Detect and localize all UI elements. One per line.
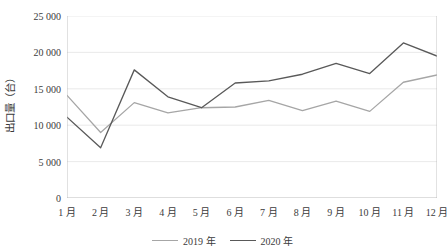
legend-label: 2020 年: [261, 233, 294, 248]
gridlines: [67, 16, 437, 198]
x-tick-label: 1 月: [58, 204, 76, 219]
x-tick-label: 6 月: [226, 204, 244, 219]
series-line-2020-年: [67, 43, 437, 148]
chart-legend: 2019 年2020 年: [0, 230, 445, 250]
y-tick-label: 10 000: [34, 120, 62, 131]
x-tick-label: 7 月: [260, 204, 278, 219]
y-tick-label: 15 000: [34, 83, 62, 94]
legend-label: 2019 年: [183, 233, 216, 248]
x-tick-label: 12 月: [426, 204, 448, 219]
plot-area: [67, 16, 437, 198]
legend-item[interactable]: 2019 年: [152, 233, 216, 248]
y-tick-label: 20 000: [34, 47, 62, 58]
x-tick-label: 9 月: [327, 204, 345, 219]
legend-item[interactable]: 2020 年: [230, 233, 294, 248]
x-tick-label: 5 月: [193, 204, 211, 219]
legend-swatch: [230, 240, 256, 241]
x-tick-label: 2 月: [92, 204, 110, 219]
x-axis-tick-labels: 1 月2 月3 月4 月5 月6 月7 月8 月9 月10 月11 月12 月: [67, 200, 437, 222]
y-tick-label: 5 000: [39, 156, 62, 167]
x-tick-label: 3 月: [126, 204, 144, 219]
y-axis-tick-labels: 05 00010 00015 00020 00025 000: [14, 0, 64, 205]
x-tick-label: 4 月: [159, 204, 177, 219]
x-tick-label: 11 月: [392, 204, 414, 219]
series-line-2019-年: [67, 75, 437, 133]
axis-lines: [67, 16, 437, 198]
y-tick-label: 0: [56, 193, 61, 204]
series-lines: [67, 43, 437, 148]
x-tick-label: 8 月: [294, 204, 312, 219]
plot-svg: [67, 16, 437, 198]
legend-swatch: [152, 240, 178, 241]
y-tick-label: 25 000: [34, 11, 62, 22]
x-tick-label: 10 月: [358, 204, 381, 219]
